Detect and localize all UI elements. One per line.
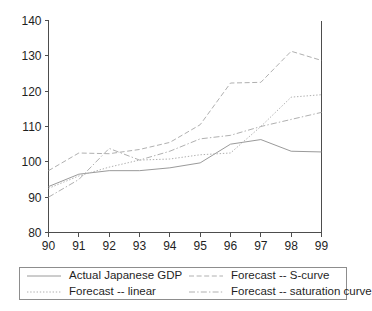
- series-line-forecast-s-curve: [49, 51, 322, 170]
- y-tick-label: 90: [28, 191, 42, 205]
- legend-line-sample-dotted: [26, 288, 62, 296]
- x-tick-label: 91: [72, 239, 86, 253]
- axis-frame: [49, 21, 322, 233]
- x-axis-ticks: 90919293949596979899: [42, 233, 329, 253]
- legend-line-sample-solid: [26, 272, 62, 280]
- y-tick-label: 130: [21, 49, 41, 63]
- series-line-forecast-linear: [49, 95, 322, 189]
- legend-grid: Actual Japanese GDPForecast -- S-curveFo…: [20, 268, 346, 299]
- legend-line-sample-dashed: [188, 272, 224, 280]
- legend-item-label: Actual Japanese GDP: [69, 270, 182, 282]
- x-tick-label: 92: [102, 239, 116, 253]
- legend-item-label: Forecast -- linear: [69, 286, 156, 298]
- series-line-forecast-saturation-curve: [49, 112, 322, 197]
- y-tick-label: 120: [21, 85, 41, 99]
- x-tick-label: 99: [315, 239, 329, 253]
- y-tick-label: 110: [22, 120, 41, 134]
- legend-item[interactable]: Actual Japanese GDP: [20, 268, 186, 284]
- x-tick-label: 95: [193, 239, 207, 253]
- legend-line-sample-dashdot: [188, 288, 224, 296]
- data-series-group: [49, 51, 322, 197]
- y-tick-label: 100: [21, 155, 41, 169]
- series-line-actual-japanese-gdp: [49, 140, 322, 187]
- chart-legend: Actual Japanese GDPForecast -- S-curveFo…: [19, 267, 347, 300]
- y-tick-label: 140: [21, 14, 41, 28]
- y-tick-label: 80: [28, 226, 42, 240]
- plot-area: 8090100110120130140 90919293949596979899: [0, 0, 369, 258]
- x-tick-label: 97: [254, 239, 268, 253]
- y-axis-ticks: 8090100110120130140: [21, 14, 48, 240]
- legend-item[interactable]: Forecast -- saturation curve: [186, 284, 348, 300]
- x-tick-label: 98: [284, 239, 298, 253]
- legend-item[interactable]: Forecast -- linear: [20, 284, 186, 300]
- x-tick-label: 90: [42, 239, 56, 253]
- legend-item-label: Forecast -- S-curve: [231, 270, 329, 282]
- line-chart-svg: 8090100110120130140 90919293949596979899: [0, 0, 369, 258]
- x-tick-label: 94: [163, 239, 177, 253]
- legend-item[interactable]: Forecast -- S-curve: [186, 268, 348, 284]
- legend-item-label: Forecast -- saturation curve: [231, 286, 372, 298]
- x-tick-label: 93: [133, 239, 147, 253]
- x-tick-label: 96: [224, 239, 238, 253]
